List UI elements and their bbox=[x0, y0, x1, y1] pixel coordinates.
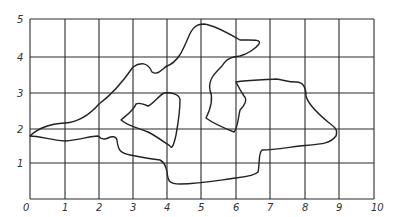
y-tick-label: 5 bbox=[17, 14, 23, 25]
x-tick-label: 5 bbox=[198, 202, 204, 213]
x-tick-label: 0 bbox=[23, 202, 29, 213]
irregular-shape-outline bbox=[30, 24, 337, 184]
x-tick-label: 4 bbox=[164, 202, 170, 213]
x-tick-label: 6 bbox=[233, 202, 239, 213]
x-tick-labels: 012345678910 bbox=[23, 202, 384, 213]
x-tick-label: 9 bbox=[336, 202, 342, 213]
y-tick-labels: 12345 bbox=[17, 14, 23, 169]
x-tick-label: 8 bbox=[302, 202, 308, 213]
y-tick-label: 1 bbox=[17, 158, 23, 169]
inner-lobe-outline bbox=[121, 93, 180, 148]
y-tick-label: 4 bbox=[17, 52, 23, 63]
y-tick-label: 2 bbox=[17, 124, 23, 135]
x-tick-label: 1 bbox=[62, 202, 68, 213]
y-tick-label: 3 bbox=[17, 88, 23, 99]
x-tick-label: 10 bbox=[371, 202, 384, 213]
grid-diagram: 012345678910 12345 bbox=[0, 0, 402, 217]
x-tick-label: 2 bbox=[96, 202, 102, 213]
x-tick-label: 3 bbox=[130, 202, 136, 213]
x-tick-label: 7 bbox=[267, 202, 274, 213]
grid-lines bbox=[30, 19, 374, 199]
